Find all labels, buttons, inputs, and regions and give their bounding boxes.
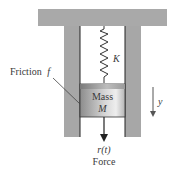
spring [100, 26, 108, 83]
displacement-label: y [157, 96, 163, 107]
top-support-beam [38, 9, 167, 26]
right-wall [125, 26, 141, 137]
force-label: Force [93, 156, 116, 167]
mass-symbol: M [97, 103, 107, 114]
force-arrow-head [100, 134, 108, 142]
force-symbol: r(t) [97, 144, 111, 156]
mass-label: Mass [92, 91, 113, 102]
friction-label: Friction f [10, 66, 51, 77]
friction-text: Friction [10, 66, 42, 77]
displacement-arrow-head [150, 111, 156, 117]
friction-symbol: f [47, 66, 51, 77]
left-wall [64, 26, 80, 137]
spring-constant-label: K [112, 53, 121, 64]
mass-block-top-band [80, 84, 125, 89]
mass-spring-damper-diagram: K Mass M Friction f y r(t) Force [0, 0, 177, 178]
